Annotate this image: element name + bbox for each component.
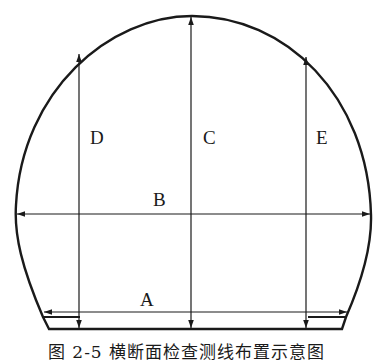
figure-caption: 图 2-5 横断面检查测线布置示意图 [0,338,373,363]
tunnel-outline [16,16,371,329]
label-e: E [316,127,328,148]
label-a: A [140,289,154,310]
label-b: B [153,189,166,210]
label-d: D [90,127,104,148]
label-c: C [203,127,216,148]
